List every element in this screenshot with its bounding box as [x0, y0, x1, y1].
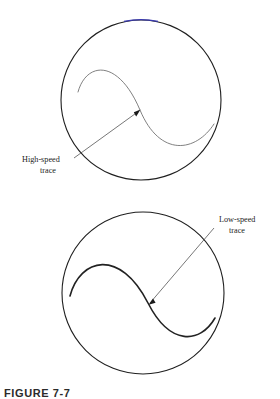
high-speed-leader-line: [74, 111, 139, 158]
low-speed-arrowhead-icon: [149, 298, 156, 304]
upper-circle-outline: [61, 20, 221, 180]
low-speed-panel: Low-speed trace: [62, 212, 255, 374]
figure-container: High-speed trace Low-speed trace FIGURE …: [0, 0, 280, 399]
low-speed-label-line2: trace: [229, 226, 245, 235]
low-speed-trace-curve: [70, 265, 215, 337]
figure-drawing: High-speed trace Low-speed trace: [0, 0, 280, 399]
high-speed-panel: High-speed trace: [22, 20, 221, 180]
low-speed-label-line1: Low-speed: [219, 215, 255, 224]
low-speed-leader-line: [150, 228, 214, 303]
high-speed-label-line2: trace: [40, 166, 56, 175]
high-speed-label-line1: High-speed: [22, 155, 60, 164]
figure-caption: FIGURE 7-7: [4, 387, 71, 399]
high-speed-trace-curve: [78, 70, 214, 146]
high-speed-arrowhead-icon: [134, 110, 141, 117]
